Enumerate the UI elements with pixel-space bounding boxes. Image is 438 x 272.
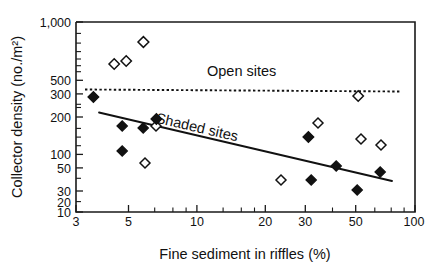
data-point-filled xyxy=(117,121,127,131)
x-tick-label-30: 30 xyxy=(298,215,312,229)
series-shaded-sites xyxy=(88,92,385,196)
data-point-open xyxy=(140,158,150,168)
y-tick-label-500: 500 xyxy=(50,74,71,88)
data-point-filled xyxy=(117,146,127,156)
x-axis-labels: 3 5 10 20 30 50 100 xyxy=(73,215,425,229)
data-point-open xyxy=(138,37,149,48)
x-tick-label-5: 5 xyxy=(125,215,132,229)
y-tick-label-200: 200 xyxy=(50,111,71,125)
data-point-open xyxy=(276,175,286,185)
chart-figure: 1,000 500 300 200 100 50 30 20 10 xyxy=(0,0,438,272)
x-tick-label-100: 100 xyxy=(404,215,425,229)
series-open-sites xyxy=(109,37,386,185)
data-point-filled xyxy=(306,175,316,185)
chart-svg: 1,000 500 300 200 100 50 30 20 10 xyxy=(0,0,438,272)
data-point-open xyxy=(376,140,386,150)
x-tick-label-50: 50 xyxy=(349,215,363,229)
data-point-open xyxy=(109,59,119,69)
y-axis-title: Collector density (no./m²) xyxy=(9,36,25,198)
x-tick-label-3: 3 xyxy=(73,215,80,229)
y-axis-ticks xyxy=(76,22,83,212)
y-tick-label-10: 10 xyxy=(57,206,71,220)
open-sites-trend-line xyxy=(85,90,400,92)
data-point-filled xyxy=(88,92,99,103)
y-tick-label-1000: 1,000 xyxy=(40,16,71,30)
annotation-shaded-sites: Shaded sites xyxy=(154,110,239,144)
plot-frame xyxy=(76,22,415,212)
data-point-open xyxy=(356,134,366,144)
data-point-open xyxy=(353,91,363,101)
y-axis-labels: 1,000 500 300 200 100 50 30 20 10 xyxy=(40,16,71,220)
x-tick-label-10: 10 xyxy=(190,215,204,229)
data-point-filled xyxy=(352,185,362,195)
y-tick-label-300: 300 xyxy=(50,88,71,102)
y-tick-label-50: 50 xyxy=(57,162,71,176)
x-tick-label-20: 20 xyxy=(258,215,272,229)
data-point-open xyxy=(121,56,131,66)
x-axis-title: Fine sediment in riffles (%) xyxy=(159,246,330,262)
y-tick-label-100: 100 xyxy=(50,148,71,162)
trend-lines xyxy=(85,90,400,182)
annotation-open-sites: Open sites xyxy=(207,63,276,79)
data-point-open xyxy=(313,118,323,128)
data-point-filled xyxy=(303,132,314,143)
x-axis-ticks xyxy=(76,205,415,212)
data-point-filled xyxy=(375,167,385,177)
